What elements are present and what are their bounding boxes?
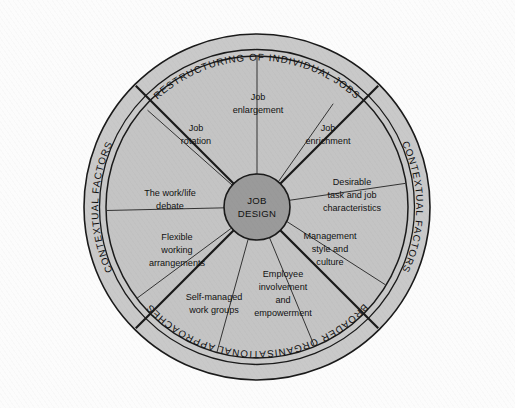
segment-worklife-line2: debate bbox=[156, 201, 184, 211]
segment-desirable-line1: Desirable bbox=[333, 177, 371, 187]
job-design-wheel: RESTRUCTURING OF INDIVIDUAL JOBS BROADER… bbox=[0, 0, 515, 408]
segment-management-line1: Management bbox=[303, 231, 357, 241]
segment-desirable-line2: task and job bbox=[327, 190, 376, 200]
segment-employee-line4: empowerment bbox=[254, 308, 312, 318]
segment-selfmanaged-line2: work groups bbox=[188, 305, 239, 315]
segment-flexible-line2: working bbox=[160, 245, 192, 255]
hub-circle bbox=[224, 174, 290, 240]
segment-selfmanaged-line1: Self-managed bbox=[186, 292, 243, 302]
segment-job-enlargement-line1: Job bbox=[251, 92, 266, 102]
segment-job-enlargement-line2: enlargement bbox=[233, 105, 284, 115]
segment-employee-line1: Employee bbox=[263, 269, 303, 279]
segment-employee-line2: involvement bbox=[259, 282, 308, 292]
hub-label-line1: JOB bbox=[247, 195, 267, 206]
diagram-canvas: RESTRUCTURING OF INDIVIDUAL JOBS BROADER… bbox=[0, 0, 515, 408]
segment-job-rotation-line1: Job bbox=[189, 123, 204, 133]
segment-desirable-line3: characteristics bbox=[323, 203, 382, 213]
segment-employee-line3: and bbox=[275, 295, 290, 305]
hub-label-line2: DESIGN bbox=[238, 208, 277, 219]
segment-flexible-line1: Flexible bbox=[161, 232, 192, 242]
segment-management-line2: style and bbox=[312, 244, 348, 254]
hub-job-design: JOB DESIGN bbox=[224, 174, 290, 240]
segment-flexible-line3: arrangements bbox=[149, 258, 206, 268]
segment-management-line3: culture bbox=[316, 257, 343, 267]
segment-job-rotation-line2: rotation bbox=[181, 136, 211, 146]
segment-job-enrichment-line1: Job bbox=[321, 123, 336, 133]
segment-worklife-line1: The work/life bbox=[144, 188, 196, 198]
segment-job-enrichment-line2: enrichment bbox=[306, 136, 351, 146]
